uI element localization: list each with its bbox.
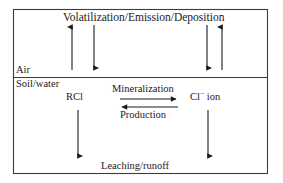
production-label: Production bbox=[120, 110, 166, 121]
chloride-suffix: ion bbox=[204, 91, 220, 102]
chloride-symbol: Cl bbox=[190, 91, 200, 102]
volatilization-label: Volatilization/Emission/Deposition bbox=[63, 12, 224, 24]
species-chloride-ion-label: Cl− ion bbox=[190, 92, 220, 103]
diagram-canvas: Volatilization/Emission/Deposition Air S… bbox=[0, 0, 283, 183]
species-rcl-label: RCl bbox=[66, 92, 83, 103]
leaching-runoff-label: Leaching/runoff bbox=[101, 161, 169, 172]
mineralization-label: Mineralization bbox=[112, 84, 174, 95]
soil-water-compartment-label: Soil/water bbox=[16, 79, 59, 90]
air-compartment-label: Air bbox=[16, 65, 30, 76]
